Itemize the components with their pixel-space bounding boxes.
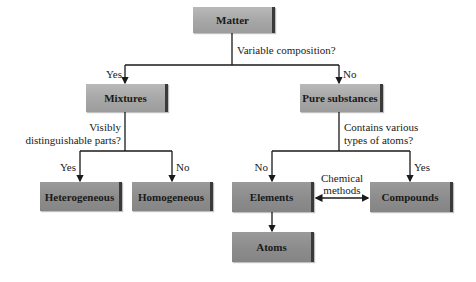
edge-label-pure-no: No xyxy=(246,161,268,174)
question-contains-atoms-line2: types of atoms? xyxy=(344,134,413,147)
question-visibly-distinguishable-line1: Visibly xyxy=(20,121,121,134)
question-contains-atoms-line1: Contains various xyxy=(344,121,418,134)
node-pure-substances: Pure substances xyxy=(300,84,383,112)
node-mixtures: Mixtures xyxy=(86,84,168,112)
edge-label-matter-yes: Yes xyxy=(100,68,122,81)
node-matter: Matter xyxy=(193,7,275,33)
edge-label-pure-yes: Yes xyxy=(414,161,430,174)
question-variable-composition: Variable composition? xyxy=(237,44,336,57)
edge-label-matter-no: No xyxy=(343,68,356,81)
node-compounds: Compounds xyxy=(370,182,453,212)
question-visibly-distinguishable-line2: distinguishable parts? xyxy=(0,134,121,147)
node-heterogeneous: Heterogeneous xyxy=(40,182,122,211)
node-elements: Elements xyxy=(232,182,314,212)
node-homogeneous: Homogeneous xyxy=(132,182,213,211)
edge-label-mixtures-yes: Yes xyxy=(54,161,76,174)
edge-label-mixtures-no: No xyxy=(176,161,189,174)
edge-label-chemical-methods-line2: methods xyxy=(316,184,368,197)
node-atoms: Atoms xyxy=(232,232,314,262)
